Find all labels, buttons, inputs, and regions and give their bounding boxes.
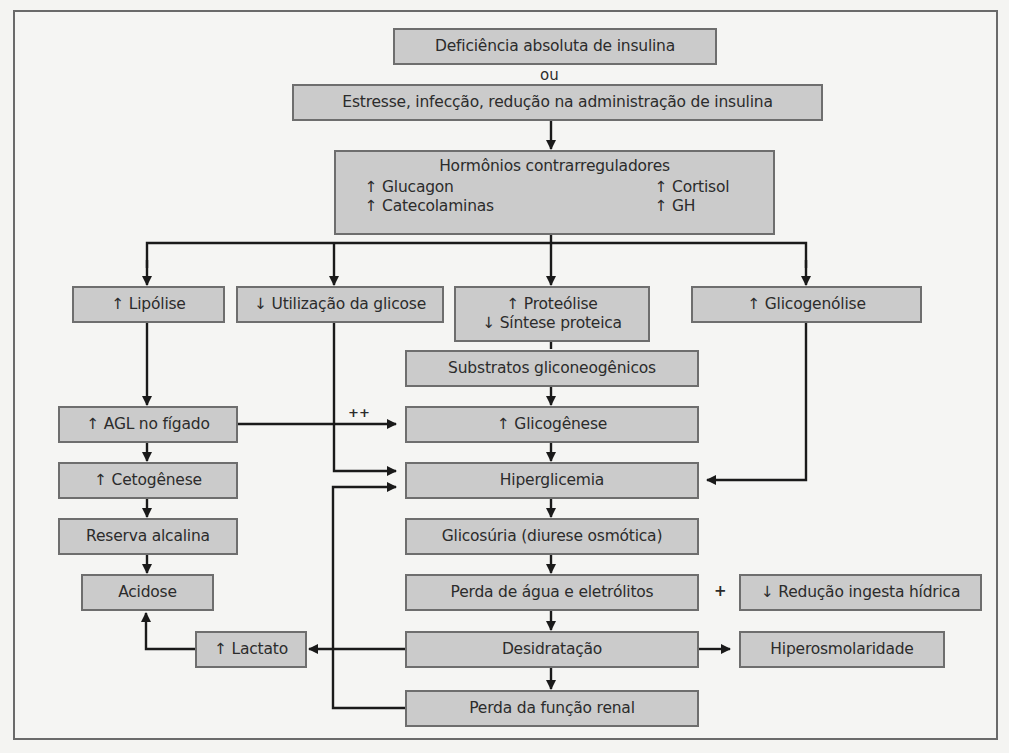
glycogenolysis-label: ↑ Glicogenólise xyxy=(747,295,865,314)
hormone-cortisol: ↑ Cortisol xyxy=(655,178,755,197)
renal-function-loss-label: Perda da função renal xyxy=(469,699,635,718)
glycogenolysis-box: ↑ Glicogenólise xyxy=(691,286,922,323)
or-label: ou xyxy=(540,66,559,84)
plus-label: + xyxy=(714,582,727,600)
renal-function-loss-box: Perda da função renal xyxy=(405,690,699,727)
water-electrolyte-loss-box: Perda de água e eletrólitos xyxy=(405,574,699,611)
cause-stress-box: Estresse, infecção, redução na administr… xyxy=(292,84,823,121)
acidosis-label: Acidose xyxy=(118,583,177,602)
hyperosmolarity-box: Hiperosmolaridade xyxy=(739,631,945,668)
glucose-utilization-label: ↓ Utilização da glicose xyxy=(254,295,426,314)
cause-insulin-deficiency-box: Deficiência absoluta de insulina xyxy=(393,28,717,65)
cause-insulin-deficiency-label: Deficiência absoluta de insulina xyxy=(435,37,675,56)
water-electrolyte-loss-label: Perda de água e eletrólitos xyxy=(451,583,654,602)
lipolysis-box: ↑ Lipólise xyxy=(72,286,225,323)
glycogenesis-label: ↑ Glicogênese xyxy=(497,415,607,434)
edge-label-plus-plus: ++ xyxy=(348,405,370,420)
hyperglycemia-label: Hiperglicemia xyxy=(500,471,604,490)
protein-synthesis-label: ↓ Síntese proteica xyxy=(482,314,622,333)
dehydration-label: Desidratação xyxy=(502,640,602,659)
ffa-liver-box: ↑ AGL no fígado xyxy=(58,406,238,443)
hormones-title: Hormônios contrarreguladores xyxy=(439,157,670,176)
glycogenesis-box: ↑ Glicogênese xyxy=(405,406,699,443)
hyperosmolarity-label: Hiperosmolaridade xyxy=(770,640,913,659)
proteolysis-box: ↑ Proteólise ↓ Síntese proteica xyxy=(454,286,650,342)
ffa-liver-label: ↑ AGL no fígado xyxy=(86,415,209,434)
lipolysis-label: ↑ Lipólise xyxy=(111,295,185,314)
gluconeogenic-substrates-box: Substratos gliconeogênicos xyxy=(405,350,699,387)
glucose-utilization-box: ↓ Utilização da glicose xyxy=(236,286,444,323)
hormone-catecholamines: ↑ Catecolaminas xyxy=(355,197,494,216)
alkaline-reserve-label: Reserva alcalina xyxy=(86,527,210,546)
hyperglycemia-box: Hiperglicemia xyxy=(405,462,699,499)
glycosuria-box: Glicosúria (diurese osmótica) xyxy=(405,518,699,555)
gluconeogenic-substrates-label: Substratos gliconeogênicos xyxy=(448,359,656,378)
acidosis-box: Acidose xyxy=(81,574,214,611)
cause-stress-label: Estresse, infecção, redução na administr… xyxy=(342,93,772,112)
counterregulatory-hormones-box: Hormônios contrarreguladores ↑ Glucagon … xyxy=(334,150,775,235)
glycosuria-label: Glicosúria (diurese osmótica) xyxy=(442,527,663,546)
dehydration-box: Desidratação xyxy=(405,631,699,668)
hormone-gh: ↑ GH xyxy=(655,197,755,216)
reduced-fluid-intake-box: ↓ Redução ingesta hídrica xyxy=(739,574,982,611)
alkaline-reserve-box: Reserva alcalina xyxy=(58,518,238,555)
reduced-fluid-intake-label: ↓ Redução ingesta hídrica xyxy=(761,583,960,602)
ketogenesis-label: ↑ Cetogênese xyxy=(94,471,202,490)
lactate-box: ↑ Lactato xyxy=(195,631,307,668)
hormone-glucagon: ↑ Glucagon xyxy=(355,178,454,197)
ketogenesis-box: ↑ Cetogênese xyxy=(58,462,238,499)
lactate-label: ↑ Lactato xyxy=(214,640,288,659)
proteolysis-label: ↑ Proteólise xyxy=(506,295,597,314)
